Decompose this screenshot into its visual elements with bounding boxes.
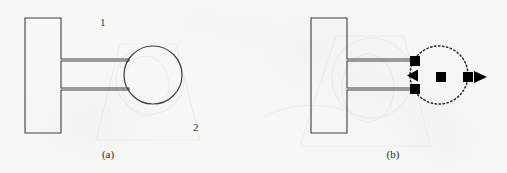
technical-figure-drawing: [0, 0, 507, 173]
panel-a-caption: (a): [88, 148, 128, 160]
panel-a-label-1: 1: [100, 16, 106, 28]
contact-square-top-icon: [410, 56, 420, 66]
ghost-bleedthrough: [96, 36, 430, 146]
panel-a-body-outline: [25, 18, 129, 133]
reaction-arrow-right-icon: [474, 71, 487, 83]
figure-container: 1 2 (a) (b): [0, 0, 507, 173]
panel-b-markers: [407, 56, 487, 94]
panel-b-caption: (b): [373, 148, 413, 160]
panel-a-circle: [124, 46, 182, 104]
contact-square-right-icon: [463, 72, 473, 82]
panel-b-body-outline: [311, 18, 415, 133]
panel-a-label-2: 2: [193, 121, 199, 133]
panel-b: [311, 18, 487, 133]
contact-square-bottom-icon: [410, 84, 420, 94]
panel-a: [25, 18, 182, 133]
center-square-icon: [436, 72, 446, 82]
